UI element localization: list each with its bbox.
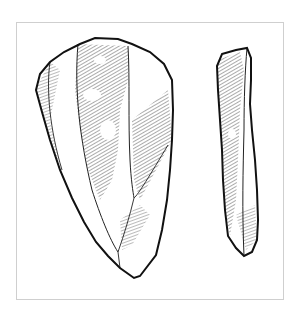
narrow-blade xyxy=(217,48,258,256)
large-flake xyxy=(36,38,173,278)
lithic-illustration xyxy=(0,0,299,315)
